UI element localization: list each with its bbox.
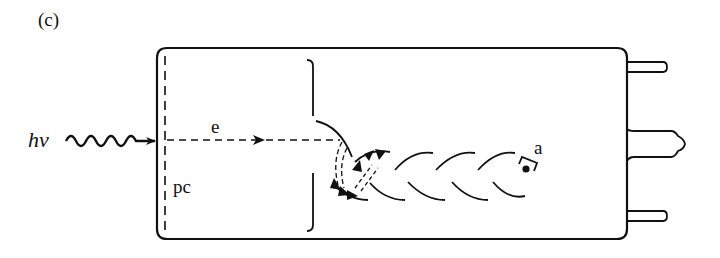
panel-label: (c) [38,10,59,29]
anode-label: a [534,138,542,157]
electron-path-arrow [167,135,340,145]
photocathode-label: pc [173,177,191,196]
focusing-electrode [307,60,313,231]
electron-label: e [211,117,219,136]
bottom-pin [627,211,667,221]
center-pin [627,129,685,161]
top-pin [627,62,667,72]
anode [519,157,537,173]
photomultiplier-diagram: (c) hν e pc a [0,0,720,258]
diagram-canvas [0,0,720,258]
tube-envelope [157,48,627,239]
photon-wave-arrow [66,136,155,146]
photon-label: hν [28,129,49,151]
dynode-chain [316,121,525,200]
base-pins [627,62,685,221]
